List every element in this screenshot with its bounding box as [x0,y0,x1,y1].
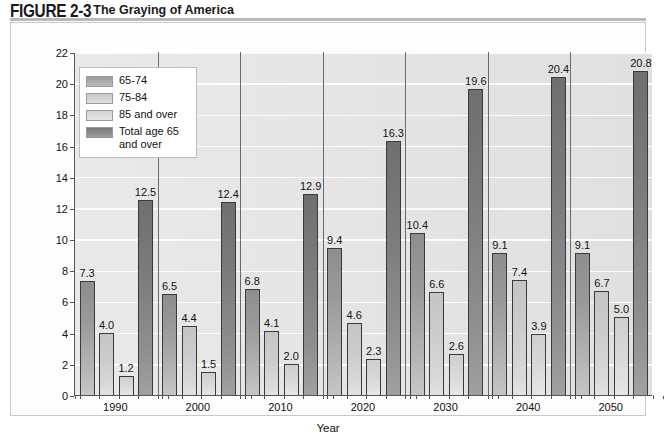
legend-item-label-line2: and over [119,138,162,150]
figure-title-underline [10,18,646,21]
x-minor-tick-mark [264,396,265,399]
group-separator [240,52,241,395]
y-tick-label: 6 [28,296,68,308]
figure-frame: Percentage of population Year 0246810121… [10,22,646,416]
x-minor-tick-mark [449,396,450,399]
bar-value-label: 19.6 [454,75,498,87]
x-minor-tick-mark [551,396,552,399]
y-tick-label: 14 [28,172,68,184]
x-minor-tick-mark [333,396,334,399]
y-tick-label: 8 [28,265,68,277]
bar-85-and-over-2000 [201,372,216,395]
x-tick-label: 2000 [168,401,228,413]
y-tick-label: 4 [28,328,68,340]
y-tick-label: 2 [28,359,68,371]
chart-legend: 65-74 75-84 85 and over Total age 65and … [79,67,197,158]
bar-total-age-65-and-over-2010 [303,194,318,395]
x-minor-tick-mark [162,396,163,399]
bar-75-84-2020 [347,323,362,395]
bar-65-74-2050 [575,253,590,395]
x-minor-tick-mark [366,396,367,399]
bar-total-age-65-and-over-1990 [138,200,153,395]
bar-value-label: 7.4 [497,266,541,278]
bar-85-and-over-2010 [284,364,299,395]
x-tick-label: 2050 [581,401,641,413]
bar-value-label: 4.1 [250,317,294,329]
x-minor-tick-mark [498,396,499,399]
legend-swatch-icon [86,76,113,87]
bar-value-label: 4.6 [332,309,376,321]
x-minor-tick-mark [633,396,634,399]
x-tick-mark [75,395,76,399]
bar-total-age-65-and-over-2050 [633,71,648,395]
bar-65-74-2000 [162,294,177,395]
x-axis-label: Year [11,422,645,434]
bar-85-and-over-2050 [614,317,629,395]
x-minor-tick-mark [168,396,169,399]
x-minor-tick-mark [468,396,469,399]
legend-item-label: 65-74 [119,74,147,87]
bar-value-label: 9.1 [478,239,522,251]
x-tick-label: 2030 [416,401,476,413]
x-minor-tick-mark [594,396,595,399]
legend-item: 65-74 [86,74,189,87]
bar-value-label: 20.8 [619,57,663,69]
x-minor-tick-mark [284,396,285,399]
x-tick-mark [158,395,159,399]
bar-total-age-65-and-over-2020 [386,141,401,395]
x-minor-tick-mark [99,396,100,399]
x-minor-tick-mark [614,396,615,399]
bar-value-label: 6.6 [415,278,459,290]
x-minor-tick-mark [119,396,120,399]
figure-title-bar: FIGURE 2-3 The Graying of America [10,0,646,20]
bar-value-label: 6.5 [148,280,192,292]
bar-total-age-65-and-over-2000 [221,202,236,395]
bar-85-and-over-2030 [449,354,464,395]
x-tick-mark [488,395,489,399]
group-separator [323,52,324,395]
y-tick-label: 20 [28,78,68,90]
x-tick-label: 2020 [333,401,393,413]
x-tick-mark [240,395,241,399]
y-tick-mark [70,396,74,397]
legend-item-label: Total age 65and over [119,125,179,151]
bar-value-label: 10.4 [395,219,439,231]
x-minor-tick-mark [492,396,493,399]
bar-65-74-2010 [245,289,260,395]
legend-item: 85 and over [86,108,189,121]
bar-value-label: 4.0 [85,319,129,331]
bar-value-label: 12.4 [206,188,250,200]
bar-value-label: 4.4 [167,312,211,324]
x-minor-tick-mark [410,396,411,399]
bar-65-74-1990 [80,281,95,395]
bar-value-label: 6.7 [580,277,624,289]
x-minor-tick-mark [386,396,387,399]
x-minor-tick-mark [575,396,576,399]
x-minor-tick-mark [416,396,417,399]
x-minor-tick-mark [512,396,513,399]
legend-item-label: 85 and over [119,108,177,121]
bar-value-label: 12.9 [289,180,333,192]
y-tick-label: 10 [28,234,68,246]
bar-value-label: 6.8 [230,275,274,287]
x-minor-tick-mark [303,396,304,399]
legend-swatch-icon [86,127,113,138]
x-minor-tick-mark [581,396,582,399]
bar-total-age-65-and-over-2040 [551,77,566,395]
y-tick-label: 16 [28,141,68,153]
x-tick-mark [653,395,654,399]
legend-item-label: 75-84 [119,91,147,104]
bar-85-and-over-2040 [531,334,546,395]
bar-value-label: 9.4 [313,234,357,246]
x-minor-tick-mark [245,396,246,399]
x-tick-mark [405,395,406,399]
bar-75-84-2010 [264,331,279,395]
x-tick-mark [323,395,324,399]
bar-value-label: 9.1 [560,239,604,251]
x-minor-tick-mark [221,396,222,399]
bar-65-74-2020 [327,248,342,395]
y-tick-label: 18 [28,109,68,121]
group-separator [488,52,489,395]
bar-85-and-over-1990 [119,376,134,395]
y-tick-label: 12 [28,203,68,215]
